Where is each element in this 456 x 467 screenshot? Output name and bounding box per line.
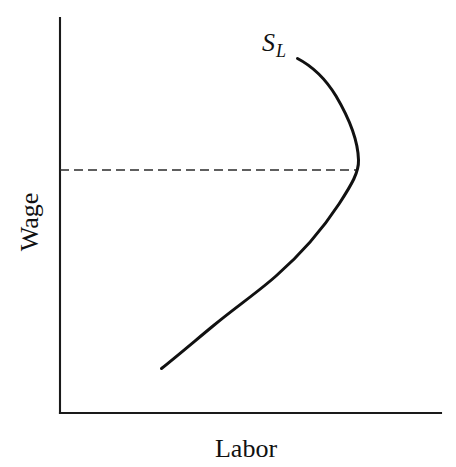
curve-label-main-letter: S [262,28,275,57]
wage-axis-label: Wage [15,193,44,252]
labor-supply-figure: SL Wage Labor [0,0,456,467]
figure-canvas: SL Wage Labor [0,0,456,467]
curve-label-subscript: L [275,41,286,61]
curve-label-s-l: SL [262,28,286,61]
labor-supply-curve [162,59,359,369]
labor-axis-label: Labor [215,434,277,463]
